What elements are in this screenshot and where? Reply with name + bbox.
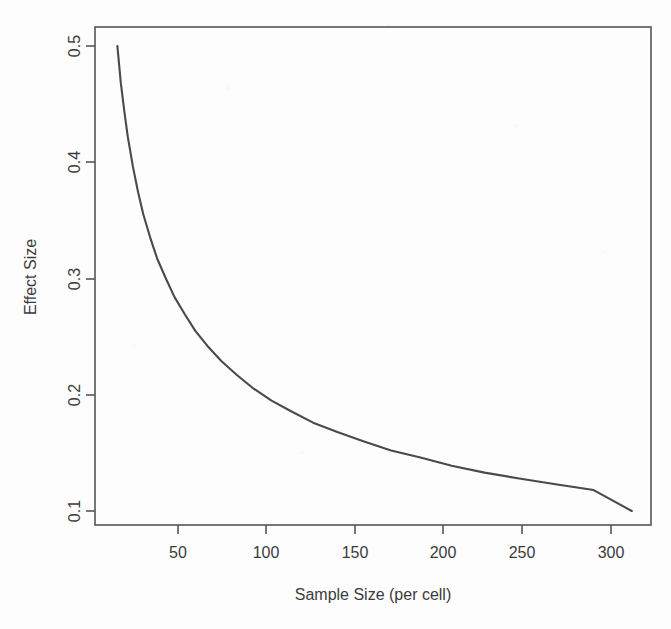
figure-page: 0.5 0.4 0.3 0.2 0.1 Effect Size 50 100 1… bbox=[0, 0, 671, 629]
x-axis-title: Sample Size (per cell) bbox=[295, 586, 452, 603]
y-tick-label-3: 0.3 bbox=[66, 268, 83, 290]
x-axis-tick-labels: 50 100 150 200 250 300 bbox=[169, 544, 624, 561]
effect-size-curve bbox=[117, 46, 631, 511]
plot-frame-box bbox=[95, 27, 651, 525]
y-axis-tick-labels: 0.5 0.4 0.3 0.2 0.1 bbox=[66, 35, 83, 522]
y-tick-label-1: 0.1 bbox=[66, 500, 83, 522]
x-tick-label-200: 200 bbox=[430, 544, 457, 561]
x-tick-label-50: 50 bbox=[169, 544, 187, 561]
y-tick-label-2: 0.2 bbox=[66, 384, 83, 406]
y-tick-label-4: 0.4 bbox=[66, 151, 83, 173]
x-tick-label-100: 100 bbox=[253, 544, 280, 561]
x-tick-label-300: 300 bbox=[598, 544, 625, 561]
y-tick-label-5: 0.5 bbox=[66, 35, 83, 57]
y-axis-title: Effect Size bbox=[22, 239, 39, 315]
x-tick-label-250: 250 bbox=[509, 544, 536, 561]
y-axis-ticks bbox=[86, 46, 95, 511]
effect-size-vs-sample-size-chart: 0.5 0.4 0.3 0.2 0.1 Effect Size 50 100 1… bbox=[0, 0, 671, 629]
x-axis-ticks bbox=[178, 525, 611, 534]
x-tick-label-150: 150 bbox=[342, 544, 369, 561]
